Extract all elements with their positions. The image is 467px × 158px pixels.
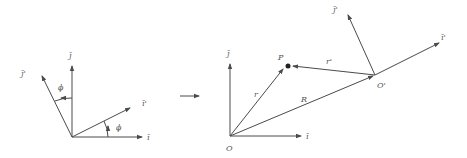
label-r: r	[254, 90, 259, 99]
left-frame: ī j̄ ī' j̄' ϕ ϕ	[19, 51, 150, 142]
j-prime-axis-arrow-right	[348, 15, 375, 75]
label-j-prime: j̄'	[19, 69, 26, 78]
j-prime-axis-arrow	[42, 76, 72, 137]
label-R: R	[300, 95, 307, 104]
label-i-prime: ī'	[142, 99, 147, 108]
label-origin-O-prime: O'	[377, 81, 386, 90]
r-vector	[230, 69, 283, 136]
label-i-prime-right: ī'	[441, 33, 446, 42]
label-i: ī	[147, 133, 150, 142]
frame-diagram: ī j̄ ī' j̄' ϕ ϕ O O' P ī j̄ ī' j̄' r…	[0, 0, 467, 158]
r-prime-vector	[293, 66, 375, 75]
R-vector	[230, 76, 373, 136]
label-phi-i: ϕ	[116, 123, 122, 132]
label-j: j̄	[67, 51, 72, 60]
i-prime-axis-arrow-right	[375, 43, 439, 75]
label-j-right: j̄	[225, 49, 230, 58]
label-origin-O: O	[226, 144, 233, 153]
label-j-prime-right: j̄'	[331, 5, 338, 14]
label-phi-j: ϕ	[58, 83, 64, 92]
point-P	[286, 64, 291, 69]
label-r-prime: r'	[326, 57, 332, 66]
label-i-right: ī	[306, 132, 309, 141]
right-frame: O O' P ī j̄ ī' j̄' r r' R	[225, 5, 446, 153]
phi-arc-i	[104, 121, 108, 137]
label-P: P	[277, 53, 284, 62]
